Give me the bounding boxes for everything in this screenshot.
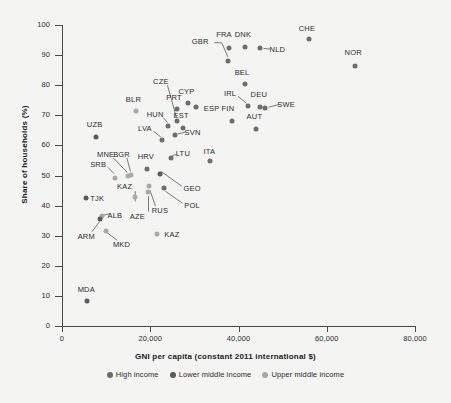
- data-point-label-srb: SRB: [90, 160, 106, 169]
- legend-item-upper[interactable]: Upper middle income: [262, 370, 344, 379]
- y-axis-tick-label: 90: [10, 50, 50, 59]
- data-point-svn[interactable]: [173, 133, 178, 138]
- data-point-label-mne: MNE: [97, 149, 114, 158]
- data-point-gbr[interactable]: [225, 58, 230, 63]
- data-point-label-che: CHE: [299, 24, 315, 33]
- chart-legend: High incomeLower middle incomeUpper midd…: [0, 370, 451, 379]
- y-axis-tick: [55, 236, 62, 237]
- y-axis-tick-label: 50: [10, 171, 50, 180]
- y-axis-tick-label: 60: [10, 140, 50, 149]
- data-point-geo[interactable]: [157, 171, 162, 176]
- data-point-label-deu: DEU: [251, 90, 267, 99]
- data-point-label-fra: FRA: [216, 30, 232, 39]
- data-point-label-dnk: DNK: [235, 30, 251, 39]
- leader-line-hun: [163, 118, 167, 123]
- data-point-aut[interactable]: [254, 127, 259, 132]
- leader-line-pol: [165, 191, 182, 203]
- data-point-label-irl: IRL: [224, 88, 236, 97]
- data-point-label-hun: HUN: [147, 110, 164, 119]
- x-axis-tick-label: 20,000: [125, 334, 175, 343]
- data-point-swe[interactable]: [262, 105, 267, 110]
- data-point-label-aut: AUT: [247, 111, 263, 120]
- legend-label-lower: Lower middle income: [179, 370, 252, 379]
- data-point-pol[interactable]: [162, 185, 167, 190]
- y-axis-tick: [55, 206, 62, 207]
- data-point-label-svn: SVN: [185, 127, 201, 136]
- data-point-deu[interactable]: [257, 105, 262, 110]
- data-point-label-fin: FIN: [222, 104, 235, 113]
- data-point-dnk[interactable]: [243, 44, 248, 49]
- y-axis-tick: [55, 145, 62, 146]
- data-point-arm[interactable]: [97, 217, 102, 222]
- legend-item-lower[interactable]: Lower middle income: [170, 370, 252, 379]
- y-axis-tick-label: 70: [10, 110, 50, 119]
- data-point-nld[interactable]: [257, 46, 262, 51]
- data-point-mkd[interactable]: [103, 229, 108, 234]
- y-axis-title: Share of households (%): [20, 65, 29, 245]
- data-point-lva[interactable]: [159, 138, 164, 143]
- data-point-label-tjk: TJK: [90, 193, 104, 202]
- data-point-label-mkd: MKD: [113, 239, 130, 248]
- leader-line-irl: [238, 96, 246, 103]
- x-axis-tick: [62, 326, 63, 332]
- leader-line-srb: [108, 167, 114, 173]
- data-point-hrv[interactable]: [145, 167, 150, 172]
- y-axis-tick-label: 10: [10, 291, 50, 300]
- data-point-srb[interactable]: [112, 175, 117, 180]
- data-point-label-kaz: KAZ: [164, 229, 179, 238]
- data-point-label-alb: ALB: [108, 210, 123, 219]
- data-point-ita[interactable]: [208, 158, 213, 163]
- data-point-hun[interactable]: [165, 123, 170, 128]
- x-axis-title: GNI per capita (constant 2011 internatio…: [0, 352, 451, 361]
- y-axis-tick: [55, 266, 62, 267]
- x-axis-tick: [415, 326, 416, 332]
- data-point-label-pol: POL: [184, 200, 200, 209]
- data-point-label-ita: ITA: [204, 147, 216, 156]
- data-point-label-lva: LVA: [138, 123, 152, 132]
- data-point-che[interactable]: [307, 36, 312, 41]
- data-point-esp[interactable]: [193, 104, 198, 109]
- data-point-tjk[interactable]: [84, 196, 89, 201]
- data-point-label-ltu: LTU: [176, 148, 190, 157]
- data-point-kaz[interactable]: [133, 195, 138, 200]
- y-axis-tick: [55, 115, 62, 116]
- data-point-label-bel: BEL: [235, 67, 250, 76]
- data-point-fra[interactable]: [226, 45, 231, 50]
- y-axis-tick-label: 0: [10, 321, 50, 330]
- y-axis-tick: [55, 85, 62, 86]
- x-axis-tick-label: 60,000: [302, 334, 352, 343]
- data-point-kaz[interactable]: [154, 231, 159, 236]
- data-point-fin[interactable]: [229, 119, 234, 124]
- y-axis-line: [62, 25, 63, 326]
- legend-item-high[interactable]: High income: [107, 370, 159, 379]
- data-point-ltu[interactable]: [168, 156, 173, 161]
- scatter-chart-figure: 0102030405060708090100 020,00040,00060,0…: [0, 0, 451, 403]
- leader-line-arm: [92, 222, 100, 232]
- data-point-label-cze: CZE: [153, 76, 169, 85]
- data-point-label-nld: NLD: [270, 45, 286, 54]
- data-point-irl[interactable]: [246, 103, 251, 108]
- data-point-bel[interactable]: [243, 82, 248, 87]
- y-axis-tick: [55, 296, 62, 297]
- y-axis-tick-label: 100: [10, 20, 50, 29]
- data-point-cyp[interactable]: [186, 100, 191, 105]
- data-point-uzb[interactable]: [94, 134, 99, 139]
- data-point-label-bgr: BGR: [113, 149, 130, 158]
- leader-line-mne: [113, 158, 127, 173]
- y-axis-tick-label: 20: [10, 261, 50, 270]
- data-point-nor[interactable]: [353, 63, 358, 68]
- x-axis-tick: [239, 326, 240, 332]
- y-axis-tick: [55, 176, 62, 177]
- data-point-aze[interactable]: [146, 190, 151, 195]
- data-point-bgr[interactable]: [128, 172, 133, 177]
- x-axis-tick-label: 0: [37, 334, 87, 343]
- data-point-label-gbr: GBR: [192, 36, 209, 45]
- data-point-rus[interactable]: [147, 183, 152, 188]
- legend-label-high: High income: [116, 370, 159, 379]
- data-point-label-blr: BLR: [126, 94, 141, 103]
- data-point-mda[interactable]: [85, 299, 90, 304]
- y-axis-tick-label: 80: [10, 80, 50, 89]
- data-point-blr[interactable]: [133, 109, 138, 114]
- data-point-label-esp: ESP: [204, 104, 220, 113]
- legend-swatch-lower: [170, 372, 176, 378]
